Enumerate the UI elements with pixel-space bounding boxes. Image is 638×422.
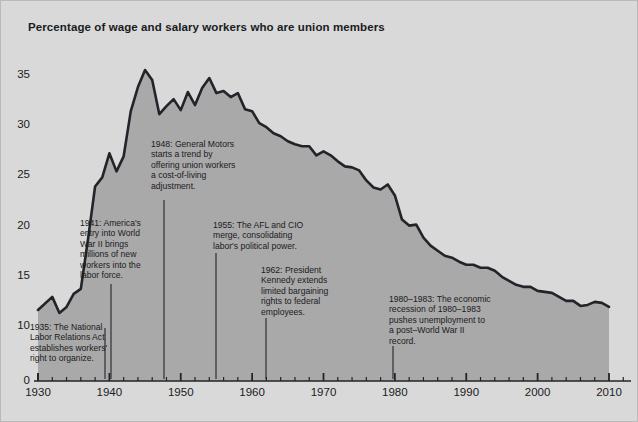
annotation-1948: 1948: General Motors starts a trend by o… — [151, 139, 235, 191]
x-axis-tick-label-1980: 1980 — [375, 386, 415, 398]
x-axis-tick-label-2000: 2000 — [518, 386, 558, 398]
annotation-1962: 1962: President Kennedy extends limited … — [261, 265, 328, 317]
x-axis-tick-label-1990: 1990 — [446, 386, 486, 398]
y-axis-tick-label-0: 0 — [8, 374, 30, 386]
annotation-1980: 1980–1983: The economic recession of 198… — [389, 294, 491, 346]
y-axis-tick-label-35: 35 — [8, 68, 30, 80]
x-axis-tick-label-1940: 1940 — [89, 386, 129, 398]
x-axis-tick-label-1970: 1970 — [304, 386, 344, 398]
annotation-1955: 1955: The AFL and CIO merge, consolidati… — [213, 220, 303, 251]
y-axis-tick-label-30: 30 — [8, 118, 30, 130]
chart-figure: Percentage of wage and salary workers wh… — [0, 0, 638, 422]
annotation-1941: 1941: America's entry into World War II … — [80, 218, 141, 280]
x-axis-tick-label-1960: 1960 — [232, 386, 272, 398]
y-axis-tick-label-25: 25 — [8, 168, 30, 180]
x-axis-tick-label-2010: 2010 — [589, 386, 629, 398]
x-axis-tick-label-1950: 1950 — [161, 386, 201, 398]
y-axis-tick-label-15: 15 — [8, 269, 30, 281]
annotation-1935: 1935: The National Labor Relations Act e… — [30, 322, 107, 364]
y-axis-tick-label-20: 20 — [8, 219, 30, 231]
x-axis-tick-label-1930: 1930 — [18, 386, 58, 398]
y-axis-tick-label-10: 10 — [8, 319, 30, 331]
